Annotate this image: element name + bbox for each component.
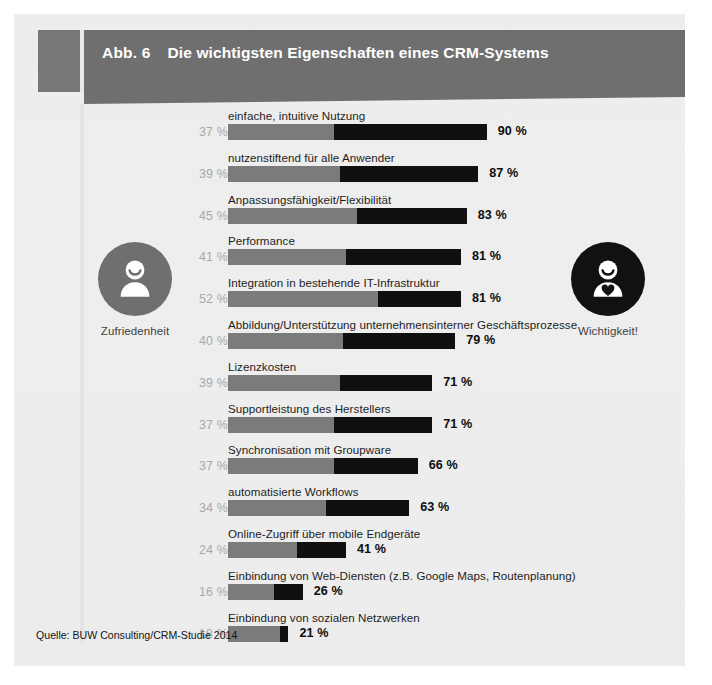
- bar-segment-importance: [334, 458, 417, 474]
- bar-segment-importance: [346, 249, 461, 265]
- category-label: Einbindung von sozialen Netzwerken: [228, 611, 420, 624]
- satisfaction-value: 24 %: [182, 543, 228, 557]
- importance-value: 83 %: [478, 208, 507, 222]
- category-label: nutzenstiftend für alle Anwender: [228, 151, 395, 164]
- satisfaction-value: 37 %: [182, 125, 228, 139]
- bar-segment-satisfaction: [228, 500, 326, 516]
- satisfaction-value: 39 %: [182, 376, 228, 390]
- bar-track: [228, 166, 478, 182]
- chart-row: Performance41 %81 %: [14, 234, 685, 276]
- importance-value: 79 %: [466, 333, 495, 347]
- bar-track: [228, 458, 418, 474]
- category-label: Integration in bestehende IT-Infrastrukt…: [228, 276, 440, 289]
- chart-row: Integration in bestehende IT-Infrastrukt…: [14, 276, 685, 318]
- category-label: Supportleistung des Herstellers: [228, 402, 391, 415]
- importance-value: 63 %: [420, 500, 449, 514]
- satisfaction-value: 39 %: [182, 167, 228, 181]
- bar-track: [228, 542, 346, 558]
- chart-row: Supportleistung des Herstellers37 %71 %: [14, 402, 685, 444]
- chart-row: Lizenzkosten39 %71 %: [14, 360, 685, 402]
- bar-segment-satisfaction: [228, 249, 346, 265]
- bar-segment-importance: [280, 626, 289, 642]
- importance-value: 66 %: [429, 458, 458, 472]
- category-label: Lizenzkosten: [228, 360, 296, 373]
- chart-row: Online-Zugriff über mobile Endgeräte24 %…: [14, 527, 685, 569]
- chart-row: nutzenstiftend für alle Anwender39 %87 %: [14, 151, 685, 193]
- satisfaction-value: 52 %: [182, 292, 228, 306]
- importance-value: 21 %: [299, 626, 328, 640]
- satisfaction-value: 41 %: [182, 250, 228, 264]
- satisfaction-value: 34 %: [182, 501, 228, 515]
- satisfaction-value: 37 %: [182, 459, 228, 473]
- category-label: Abbildung/Unterstützung unternehmensinte…: [228, 318, 577, 331]
- category-label: Einbindung von Web-Diensten (z.B. Google…: [228, 569, 576, 582]
- chart-row: Einbindung von Web-Diensten (z.B. Google…: [14, 569, 685, 611]
- bar-segment-importance: [357, 208, 466, 224]
- bar-track: [228, 249, 461, 265]
- satisfaction-value: 37 %: [182, 418, 228, 432]
- bar-track: [228, 291, 461, 307]
- bar-track: [228, 500, 409, 516]
- satisfaction-value: 16 %: [182, 585, 228, 599]
- bar-segment-satisfaction: [228, 417, 334, 433]
- bar-segment-importance: [340, 166, 478, 182]
- bar-segment-importance: [378, 291, 461, 307]
- bar-track: [228, 417, 432, 433]
- chart-row: Abbildung/Unterstützung unternehmensinte…: [14, 318, 685, 360]
- figure-source: Quelle: BUW Consulting/CRM-Studie 2014: [36, 629, 237, 641]
- bar-track: [228, 124, 487, 140]
- importance-value: 71 %: [443, 417, 472, 431]
- category-label: Anpassungsfähigkeit/Flexibilität: [228, 193, 391, 206]
- category-label: einfache, intuitive Nutzung: [228, 109, 365, 122]
- bar-track: [228, 584, 303, 600]
- bar-segment-importance: [334, 124, 486, 140]
- satisfaction-value: 45 %: [182, 209, 228, 223]
- importance-value: 87 %: [489, 166, 518, 180]
- importance-value: 81 %: [472, 249, 501, 263]
- bar-segment-satisfaction: [228, 584, 274, 600]
- chart-row: automatisierte Workflows34 %63 %: [14, 485, 685, 527]
- importance-value: 41 %: [357, 542, 386, 556]
- importance-value: 71 %: [443, 375, 472, 389]
- bar-segment-satisfaction: [228, 542, 297, 558]
- bar-segment-importance: [343, 333, 455, 349]
- bar-segment-importance: [334, 417, 432, 433]
- bar-segment-importance: [297, 542, 346, 558]
- category-label: automatisierte Workflows: [228, 485, 359, 498]
- figure-container: Abb. 6 Die wichtigsten Eigenschaften ein…: [14, 14, 685, 666]
- bar-segment-satisfaction: [228, 208, 357, 224]
- bar-segment-satisfaction: [228, 166, 340, 182]
- bar-segment-importance: [274, 584, 303, 600]
- chart-rows: einfache, intuitive Nutzung37 %90 %nutze…: [14, 14, 685, 666]
- bar-segment-satisfaction: [228, 458, 334, 474]
- chart-row: Synchronisation mit Groupware37 %66 %: [14, 443, 685, 485]
- importance-value: 26 %: [314, 584, 343, 598]
- bar-segment-satisfaction: [228, 124, 334, 140]
- bar-segment-satisfaction: [228, 375, 340, 391]
- bar-track: [228, 375, 432, 391]
- bar-segment-importance: [326, 500, 409, 516]
- chart-row: Anpassungsfähigkeit/Flexibilität45 %83 %: [14, 193, 685, 235]
- chart-row: einfache, intuitive Nutzung37 %90 %: [14, 109, 685, 151]
- category-label: Synchronisation mit Groupware: [228, 443, 391, 456]
- importance-value: 90 %: [498, 124, 527, 138]
- bar-track: [228, 333, 455, 349]
- bar-segment-satisfaction: [228, 333, 343, 349]
- bar-segment-importance: [340, 375, 432, 391]
- satisfaction-value: 40 %: [182, 334, 228, 348]
- category-label: Online-Zugriff über mobile Endgeräte: [228, 527, 420, 540]
- importance-value: 81 %: [472, 291, 501, 305]
- bar-segment-satisfaction: [228, 291, 378, 307]
- bar-track: [228, 208, 467, 224]
- category-label: Performance: [228, 234, 295, 247]
